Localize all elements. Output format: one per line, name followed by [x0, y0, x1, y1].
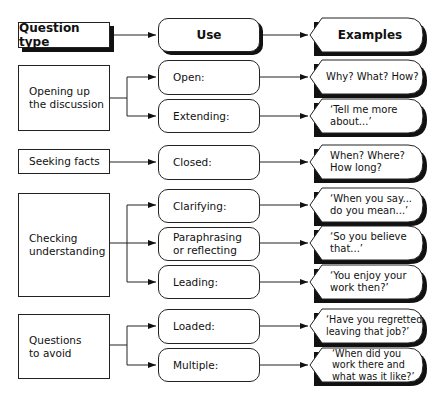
question-types-diagram: Question type Use Examples Opening up th… — [0, 0, 443, 396]
example-multiple: ‘When did you work there and what was it… — [332, 346, 426, 384]
type-label: Checking understanding — [29, 232, 105, 258]
use-label: Clarifying: — [173, 200, 226, 213]
type-box-opening-up: Opening up the discussion — [18, 65, 110, 131]
use-header-label: Use — [196, 29, 221, 42]
use-box-loaded: Loaded: — [158, 309, 260, 344]
use-label: Open: — [173, 71, 205, 84]
use-box-open: Open: — [158, 60, 260, 95]
example-label: ‘Have you regretted leaving that job?’ — [326, 314, 422, 339]
example-label: ‘You enjoy your work then?’ — [330, 270, 407, 295]
example-label: ‘When did you work there and what was it… — [332, 348, 414, 383]
use-box-paraphrasing: Paraphrasing or reflecting — [158, 227, 260, 261]
type-label: Questions to avoid — [29, 334, 81, 360]
question-type-header-label: Question type — [19, 21, 109, 49]
example-extending: ‘Tell me more about...’ — [330, 99, 422, 133]
use-label: Extending: — [173, 110, 230, 123]
use-label: Leading: — [173, 276, 218, 289]
examples-header: Examples — [322, 18, 418, 52]
type-box-checking-understanding: Checking understanding — [18, 193, 110, 297]
example-closed: When? Where? How long? — [330, 145, 422, 179]
use-box-closed: Closed: — [158, 145, 260, 180]
example-open: Why? What? How? — [326, 60, 422, 94]
use-label: Multiple: — [173, 359, 218, 372]
use-box-leading: Leading: — [158, 265, 260, 299]
example-clarifying: ‘When you say... do you mean...’ — [330, 188, 422, 222]
example-label: Why? What? How? — [326, 71, 419, 84]
use-box-extending: Extending: — [158, 99, 260, 133]
example-loaded: ‘Have you regretted leaving that job?’ — [326, 309, 424, 343]
example-leading: ‘You enjoy your work then?’ — [330, 265, 422, 299]
use-label: Closed: — [173, 156, 212, 169]
use-label: Loaded: — [173, 320, 215, 333]
use-box-clarifying: Clarifying: — [158, 189, 260, 223]
example-label: ‘When you say... do you mean...’ — [330, 193, 412, 218]
use-header: Use — [158, 18, 260, 52]
type-box-questions-to-avoid: Questions to avoid — [18, 314, 110, 379]
use-label: Paraphrasing or reflecting — [173, 231, 242, 257]
examples-header-label: Examples — [338, 29, 403, 42]
type-box-seeking-facts: Seeking facts — [18, 149, 110, 174]
type-label: Opening up the discussion — [29, 85, 104, 111]
example-paraphrasing: ‘So you believe that...’ — [330, 226, 422, 260]
example-label: ‘Tell me more about...’ — [330, 104, 397, 129]
type-label: Seeking facts — [29, 155, 100, 168]
example-label: When? Where? How long? — [330, 150, 405, 175]
example-label: ‘So you believe that...’ — [330, 231, 407, 256]
use-box-multiple: Multiple: — [158, 348, 260, 382]
question-type-header: Question type — [18, 22, 110, 48]
